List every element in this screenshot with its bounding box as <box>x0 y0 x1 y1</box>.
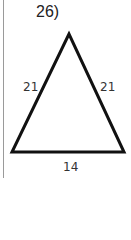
left-side-label: 21 <box>23 80 38 94</box>
right-side-label: 21 <box>100 80 115 94</box>
base-label: 14 <box>63 160 78 174</box>
